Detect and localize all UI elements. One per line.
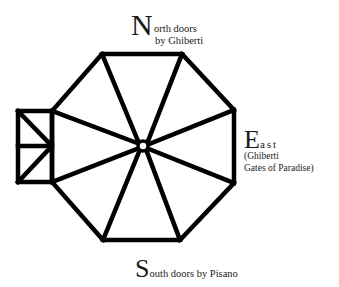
east-initial: E [244,125,260,154]
north-label-line2: by Ghiberti [155,36,203,47]
south-label-line1: outh doors by Pisano [149,268,237,279]
east-label-line3: Gates of Paradise) [244,164,314,174]
east-label-line2: (Ghiberti [244,152,279,162]
center-oculus [138,141,148,151]
north-initial: N [131,8,153,41]
south-initial: S [135,254,149,283]
south-doors-label: South doors by Pisano [135,256,238,282]
west-apse [18,111,52,182]
north-doors-label: N orth doors by Ghiberti [131,10,153,40]
north-label-line1: orth doors [154,24,197,35]
east-label-line1: ast [260,138,278,150]
east-doors-label: East (Ghiberti Gates of Paradise) [244,127,278,153]
